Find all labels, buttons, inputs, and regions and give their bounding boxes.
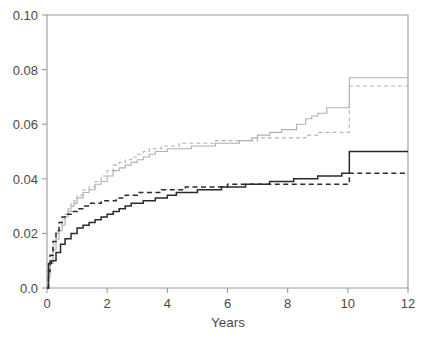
x-tick-label: 6 [224, 296, 231, 311]
x-tick-label: 10 [341, 296, 355, 311]
series-black-solid [47, 152, 408, 289]
tick-marks [42, 15, 408, 293]
y-tick-label: 0.08 [13, 63, 38, 78]
x-tick-label: 4 [164, 296, 171, 311]
series-black-dashed [47, 173, 408, 288]
series-curves [47, 78, 408, 288]
y-tick-labels: 0.00.020.040.060.080.10 [13, 8, 38, 296]
y-tick-label: 0.06 [13, 117, 38, 132]
y-tick-label: 0.0 [20, 281, 38, 296]
x-tick-label: 2 [104, 296, 111, 311]
y-tick-label: 0.10 [13, 8, 38, 23]
x-tick-label: 12 [401, 296, 415, 311]
x-tick-label: 0 [43, 296, 50, 311]
series-gray-solid [47, 78, 408, 288]
chart-figure: 024681012 0.00.020.040.060.080.10 Years [0, 0, 424, 342]
x-axis-title: Years [211, 315, 245, 330]
y-tick-label: 0.02 [13, 226, 38, 241]
plot-canvas: 024681012 0.00.020.040.060.080.10 Years [0, 0, 424, 342]
y-tick-label: 0.04 [13, 172, 38, 187]
x-tick-label: 8 [284, 296, 291, 311]
x-tick-labels: 024681012 [43, 296, 415, 311]
